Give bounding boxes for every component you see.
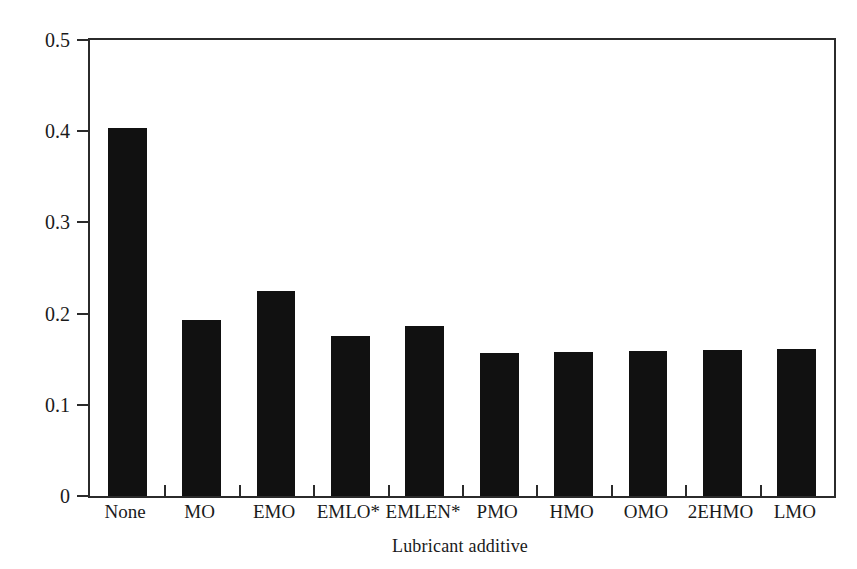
y-axis-tick-label: 0.1 — [45, 393, 70, 417]
bar — [480, 353, 519, 496]
bar — [405, 326, 444, 496]
bar-chart-figure: Coefficient of friction 00.10.20.30.40.5… — [0, 0, 857, 569]
bar — [182, 320, 221, 496]
bar — [108, 128, 147, 496]
y-axis-tick: 0.1 — [77, 404, 90, 406]
y-axis-tick-label: 0 — [60, 484, 70, 508]
y-axis-tick-label: 0.2 — [45, 302, 70, 326]
y-axis-tick: 0.5 — [77, 39, 90, 41]
x-axis-tick — [239, 485, 241, 498]
x-axis-tick — [164, 485, 166, 498]
y-axis-tick: 0 — [77, 495, 90, 497]
x-axis-tick-label: HMO — [534, 498, 608, 526]
x-axis-tick-label: PMO — [460, 498, 534, 526]
bar — [554, 352, 593, 496]
x-axis-tick-label: None — [88, 498, 162, 526]
x-axis-tick — [388, 485, 390, 498]
x-axis-tick-label: MO — [162, 498, 236, 526]
y-axis-tick-label: 0.4 — [45, 119, 70, 143]
x-axis-tick-label: OMO — [609, 498, 683, 526]
bar — [629, 351, 668, 496]
x-axis-tick — [313, 485, 315, 498]
x-axis-tick — [611, 485, 613, 498]
bar — [331, 336, 370, 496]
x-axis-title: Lubricant additive — [88, 536, 832, 557]
y-axis-tick: 0.4 — [77, 130, 90, 132]
x-axis-tick-label: 2EHMO — [683, 498, 757, 526]
y-axis-tick: 0.3 — [77, 221, 90, 223]
y-axis-tick-label: 0.5 — [45, 28, 70, 52]
bar — [703, 350, 742, 496]
x-axis-tick — [685, 485, 687, 498]
bar — [777, 349, 816, 496]
x-axis-tick — [760, 485, 762, 498]
x-axis-tick-label: EMLEN* — [386, 498, 460, 526]
x-axis-tick — [462, 485, 464, 498]
x-axis-tick-label: EMLO* — [311, 498, 385, 526]
x-axis-tick-labels: NoneMOEMOEMLO*EMLEN*PMOHMOOMO2EHMOLMO — [88, 498, 832, 530]
y-axis-title-text: Coefficient of friction — [0, 200, 2, 369]
bar — [257, 291, 296, 496]
x-axis-tick-label: LMO — [758, 498, 832, 526]
y-axis-tick: 0.2 — [77, 313, 90, 315]
plot-area: 00.10.20.30.40.5 — [88, 38, 836, 498]
y-axis-tick-label: 0.3 — [45, 210, 70, 234]
x-axis-tick-label: EMO — [237, 498, 311, 526]
x-axis-tick — [536, 485, 538, 498]
